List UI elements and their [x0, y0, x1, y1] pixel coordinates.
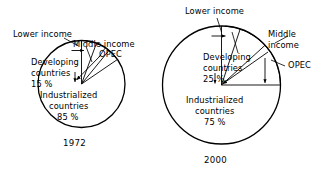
pie-2000-label-middle-income-line2: income — [268, 40, 299, 50]
pie-1972-label-industrialized-pct: 85 % — [57, 112, 78, 122]
pie-1972-label-lower-income: Lower income — [13, 29, 72, 39]
pie-1972-label-developing-line1: Developing — [31, 57, 79, 67]
pie-2000-label-industrialized-line1: Industrialized — [186, 95, 243, 105]
pie-1972-label-industrialized-line1: Industrialized — [40, 90, 97, 100]
pie-2000-label-industrialized-line2: countries — [195, 106, 234, 116]
pie-1972-label-developing-line2: countries — [31, 68, 70, 78]
pie-2000-label-industrialized-pct: 75 % — [204, 117, 225, 127]
pie-1972-label-industrialized-line2: countries — [49, 101, 88, 111]
pie-1972-arrow-industrialized — [77, 55, 102, 80]
pie-1972-label-middle-income: Middle income — [73, 39, 135, 49]
pie-2000-label-developing-line2: countries — [203, 63, 242, 73]
pie-2000-year: 2000 — [204, 155, 227, 165]
pie-chart-figure: Lower income Middle income OPEC Developi… — [0, 0, 328, 173]
pie-2000-leader-opec — [271, 60, 285, 66]
pie-1972-label-opec: OPEC — [99, 49, 122, 59]
pie-2000-label-lower-income: Lower income — [185, 6, 244, 16]
pie-2000-label-opec: OPEC — [288, 60, 311, 70]
pie-2000-label-middle-income-line1: Middle — [268, 29, 296, 39]
pie-1972-label-developing-pct: 15 % — [31, 79, 52, 89]
pie-2000-leader-lower-income — [217, 18, 222, 32]
pie-1972-year: 1972 — [63, 138, 86, 148]
pie-1972-divider-lower-middle — [82, 44, 97, 84]
pie-2000-label-developing-line1: Developing — [203, 52, 251, 62]
pie-2000-label-developing-pct: 25 % — [203, 74, 224, 84]
pie-1972-divider-opec-industrialized — [82, 60, 118, 85]
